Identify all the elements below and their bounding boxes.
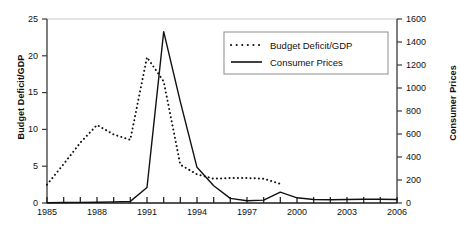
y-left-tick-label: 20 [12, 51, 38, 61]
y-left-tick-label: 5 [12, 161, 38, 171]
y-left-tick-label: 10 [12, 124, 38, 134]
y-right-tick-label: 1200 [406, 60, 436, 70]
y-left-tick-label: 15 [12, 87, 38, 97]
y-right-tick-label: 1000 [406, 83, 436, 93]
x-tick-label: 1988 [77, 207, 117, 217]
x-tick-label: 2003 [327, 207, 367, 217]
y-right-tick-label: 1600 [406, 14, 436, 24]
legend-label-budget-deficit-gdp: Budget Deficit/GDP [270, 40, 352, 51]
y-left-tick-label: 25 [12, 14, 38, 24]
y-right-tick-label: 200 [406, 175, 436, 185]
x-tick-label: 2006 [377, 207, 417, 217]
y-right-tick-label: 600 [406, 129, 436, 139]
series-line-budget-deficit-gdp [47, 57, 280, 184]
y-right-tick-label: 400 [406, 152, 436, 162]
legend-label-consumer-prices: Consumer Prices [270, 57, 343, 68]
y-axis-left-ticks [42, 19, 47, 203]
y-axis-right-ticks [397, 19, 402, 203]
y-right-tick-label: 1400 [406, 37, 436, 47]
x-tick-label: 1985 [27, 207, 67, 217]
x-tick-label: 1991 [127, 207, 167, 217]
y-right-tick-label: 800 [406, 106, 436, 116]
x-tick-label: 1997 [227, 207, 267, 217]
x-tick-label: 1994 [177, 207, 217, 217]
x-tick-label: 2000 [277, 207, 317, 217]
